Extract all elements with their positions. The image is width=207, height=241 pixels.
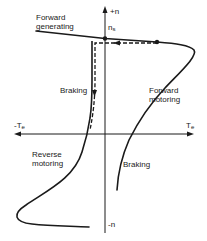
torque-axis-positive-arrow-icon xyxy=(187,132,194,137)
pos-torque-sub: e xyxy=(191,124,194,130)
forward-motoring-label: Forward motoring xyxy=(149,87,180,104)
synchronous-point xyxy=(103,36,107,40)
negative-speed-label: -n xyxy=(108,221,115,230)
forward-motoring-line2: motoring xyxy=(149,96,180,105)
negative-torque-label: -Te xyxy=(14,122,25,132)
synchronous-speed-label: ns xyxy=(108,24,115,34)
neg-torque-sub: e xyxy=(22,124,25,130)
neg-torque-main: -T xyxy=(14,121,22,130)
sync-speed-sub: s xyxy=(112,26,115,32)
speed-axis-arrow-icon xyxy=(103,6,108,13)
reverse-motoring-line2: motoring xyxy=(32,160,63,169)
forward-generating-line2: generating xyxy=(36,23,74,32)
operating-point xyxy=(155,40,159,44)
positive-speed-label: +n xyxy=(110,8,119,17)
torque-speed-diagram xyxy=(0,0,207,241)
braking-transition-dashed xyxy=(90,43,157,130)
torque-axis-negative-arrow-icon xyxy=(14,132,21,137)
reverse-motoring-label: Reverse motoring xyxy=(32,151,63,168)
transition-down-arrow-icon xyxy=(92,90,97,97)
braking-transition-solid xyxy=(90,41,92,118)
forward-generating-label: Forward generating xyxy=(36,14,74,31)
braking-upper-label: Braking xyxy=(60,87,87,96)
transition-left-arrow-icon xyxy=(113,41,120,46)
braking-lower-label: Braking xyxy=(123,161,150,170)
positive-torque-label: Te xyxy=(186,122,194,132)
